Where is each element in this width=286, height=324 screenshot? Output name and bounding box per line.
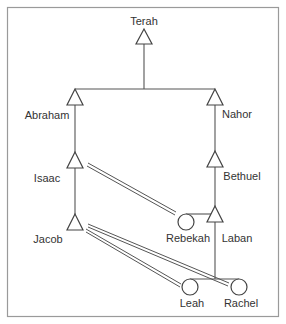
label-terah: Terah xyxy=(130,15,158,27)
label-nahor: Nahor xyxy=(222,108,252,120)
marriage-line-isaac-rebekah xyxy=(87,166,175,215)
diagram-frame xyxy=(8,8,279,317)
label-isaac: Isaac xyxy=(34,172,61,184)
label-abraham: Abraham xyxy=(25,109,70,121)
label-rebekah: Rebekah xyxy=(166,232,210,244)
kinship-diagram: Terah Abraham Nahor Isaac Bethuel Jacob … xyxy=(0,0,286,324)
triangle-icon-jacob[interactable] xyxy=(67,214,83,230)
triangle-icon-nahor[interactable] xyxy=(207,89,223,105)
triangle-icon-isaac[interactable] xyxy=(67,152,83,168)
triangle-icon-bethuel[interactable] xyxy=(207,151,223,167)
triangle-icon-abraham[interactable] xyxy=(67,89,83,105)
label-bethuel: Bethuel xyxy=(223,170,260,182)
circle-icon-rachel[interactable] xyxy=(231,279,247,295)
circle-icon-leah[interactable] xyxy=(182,279,198,295)
circle-icon-rebekah[interactable] xyxy=(178,214,194,230)
label-leah: Leah xyxy=(180,297,204,309)
label-laban: Laban xyxy=(222,232,253,244)
label-rachel: Rachel xyxy=(224,297,258,309)
label-jacob: Jacob xyxy=(33,233,62,245)
marriage-line-isaac-rebekah xyxy=(88,163,176,212)
triangle-icon-terah[interactable] xyxy=(136,29,152,44)
